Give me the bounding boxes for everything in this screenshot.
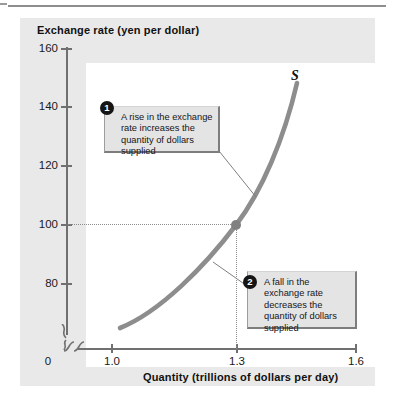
- x-tick-label-1-0: 1.0: [92, 355, 132, 367]
- x-axis-line: [78, 348, 357, 350]
- guide-line-horizontal-100: [68, 224, 233, 225]
- top-rule: [8, 5, 386, 7]
- y-tick-160: [61, 48, 72, 50]
- callout-box-1: A rise in the exchange rate increases th…: [104, 106, 220, 153]
- x-axis-title: Quantity (trillions of dollars per day): [143, 371, 338, 383]
- top-rule-left-tick: [0, 3, 7, 5]
- y-tick-label-120: 120: [24, 159, 58, 171]
- x-tick-label-1-3: 1.3: [217, 355, 257, 367]
- x-axis-break-squiggle: [62, 338, 88, 356]
- y-axis-title: Exchange rate (yen per dollar): [37, 24, 199, 36]
- callout-badge-2: 2: [243, 275, 257, 289]
- x-tick-1-6: [355, 344, 357, 353]
- y-tick-label-160: 160: [24, 42, 58, 54]
- x-tick-1-0: [111, 344, 113, 353]
- x-tick-label-1-6: 1.6: [336, 355, 376, 367]
- callout-box-2: A fall in the exchange rate decreases th…: [247, 271, 357, 329]
- y-tick-80: [61, 283, 72, 285]
- y-tick-label-140: 140: [24, 100, 58, 112]
- y-tick-120: [61, 165, 72, 167]
- y-tick-label-80: 80: [24, 277, 58, 289]
- guide-line-vertical-1-3: [236, 228, 237, 349]
- y-axis-line: [66, 47, 68, 335]
- x-tick-label-0: 0: [28, 355, 68, 367]
- curve-label-s: S: [291, 68, 299, 84]
- y-tick-label-100: 100: [24, 218, 58, 230]
- y-tick-140: [61, 106, 72, 108]
- callout-badge-1: 1: [100, 101, 114, 115]
- equilibrium-point-marker: [231, 220, 241, 230]
